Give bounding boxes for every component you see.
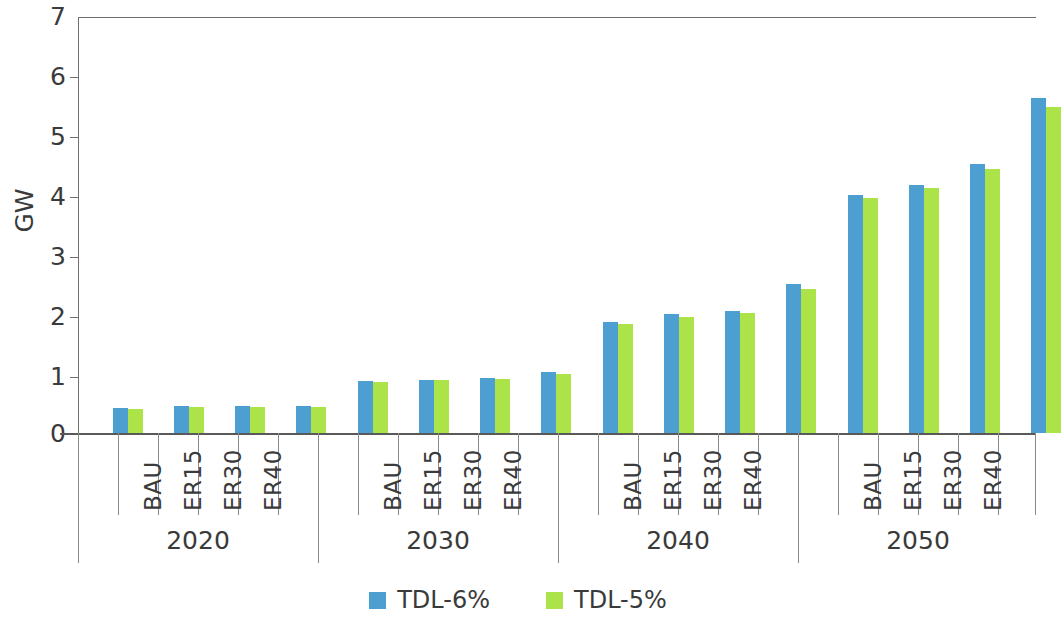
- cat-label-2030-ER30: ER30: [460, 449, 486, 511]
- group-label-2030: 2030: [318, 526, 558, 555]
- cat-label-2050-BAU: BAU: [860, 461, 886, 511]
- bar-2050-ER40-TDL-5: [1046, 107, 1061, 433]
- cell-divider: [358, 433, 359, 515]
- legend-swatch-green-icon: [546, 592, 563, 609]
- bar-2030-BAU-TDL-6: [358, 381, 373, 433]
- bar-2030-ER15-TDL-6: [419, 380, 434, 434]
- cat-label-2040-ER30: ER30: [700, 449, 726, 511]
- plot-area: [78, 17, 1036, 433]
- legend-item-tdl-5[interactable]: TDL-5%: [546, 586, 667, 614]
- cat-label-2040-ER40: ER40: [740, 449, 766, 511]
- category-axis-grid: BAU ER15 ER30 ER40 2020 BAU ER15 ER30 ER…: [60, 433, 1036, 563]
- group-label-2050: 2050: [798, 526, 1038, 555]
- cat-label-2020-ER15: ER15: [180, 449, 206, 511]
- legend-label-tdl-6: TDL-6%: [397, 586, 490, 614]
- bar-2040-ER15-TDL-5: [679, 317, 694, 434]
- bar-2020-BAU-TDL-6: [113, 408, 128, 433]
- group-label-2020: 2020: [78, 526, 318, 555]
- bar-2020-ER30-TDL-6: [235, 406, 250, 433]
- bar-2030-ER15-TDL-5: [434, 380, 449, 433]
- chart-legend: TDL-6% TDL-5%: [0, 586, 1036, 614]
- bar-2040-ER30-TDL-6: [725, 311, 740, 433]
- legend-label-tdl-5: TDL-5%: [574, 586, 667, 614]
- bar-2040-BAU-TDL-5: [618, 324, 633, 433]
- cell-divider: [838, 433, 839, 515]
- bar-2050-ER30-TDL-5: [985, 169, 1000, 434]
- y-tick-label-7: 7: [32, 4, 66, 29]
- bar-2020-BAU-TDL-5: [128, 409, 143, 433]
- bar-2040-ER30-TDL-5: [740, 313, 755, 433]
- bar-2030-BAU-TDL-5: [373, 382, 388, 433]
- cat-label-2020-BAU: BAU: [140, 461, 166, 511]
- cat-label-2050-ER40: ER40: [980, 449, 1006, 511]
- group-label-2040: 2040: [558, 526, 798, 555]
- cat-label-2050-ER15: ER15: [900, 449, 926, 511]
- bar-2040-BAU-TDL-6: [603, 322, 618, 433]
- bar-2020-ER30-TDL-5: [250, 407, 265, 433]
- bar-2040-ER15-TDL-6: [664, 314, 679, 433]
- cat-label-2030-BAU: BAU: [380, 461, 406, 511]
- bar-2050-ER15-TDL-6: [909, 185, 924, 433]
- cat-label-2030-ER40: ER40: [500, 449, 526, 511]
- bar-2050-ER30-TDL-6: [970, 164, 985, 433]
- y-tick-label-4: 4: [32, 184, 66, 209]
- bar-2050-BAU-TDL-6: [848, 195, 863, 433]
- bar-2050-BAU-TDL-5: [863, 198, 878, 433]
- bar-2020-ER40-TDL-6: [296, 406, 311, 433]
- bar-2020-ER15-TDL-5: [189, 407, 204, 433]
- cat-label-2030-ER15: ER15: [420, 449, 446, 511]
- cell-divider: [1035, 433, 1036, 515]
- y-tick-label-3: 3: [32, 244, 66, 269]
- y-tick-label-6: 6: [32, 64, 66, 89]
- cat-label-2020-ER40: ER40: [260, 449, 286, 511]
- cat-label-2040-ER15: ER15: [660, 449, 686, 511]
- bar-2050-ER15-TDL-5: [924, 188, 939, 433]
- bar-2020-ER40-TDL-5: [311, 407, 326, 433]
- y-tick-label-5: 5: [32, 124, 66, 149]
- y-tick-label-1: 1: [32, 364, 66, 389]
- cat-label-2020-ER30: ER30: [220, 449, 246, 511]
- bar-2020-ER15-TDL-6: [174, 406, 189, 433]
- cat-label-2040-BAU: BAU: [620, 461, 646, 511]
- bar-2030-ER30-TDL-5: [495, 379, 510, 433]
- bar-2030-ER40-TDL-6: [541, 372, 556, 433]
- bar-2050-ER40-TDL-6: [1031, 98, 1046, 433]
- bar-2040-ER40-TDL-5: [801, 289, 816, 433]
- legend-swatch-blue-icon: [369, 592, 386, 609]
- bar-2040-ER40-TDL-6: [786, 284, 801, 433]
- bar-2030-ER30-TDL-6: [480, 378, 495, 433]
- y-tick-label-2: 2: [32, 304, 66, 329]
- bar-2030-ER40-TDL-5: [556, 374, 571, 433]
- cat-label-2050-ER30: ER30: [940, 449, 966, 511]
- cell-divider: [118, 433, 119, 515]
- legend-item-tdl-6[interactable]: TDL-6%: [369, 586, 490, 614]
- cell-divider: [598, 433, 599, 515]
